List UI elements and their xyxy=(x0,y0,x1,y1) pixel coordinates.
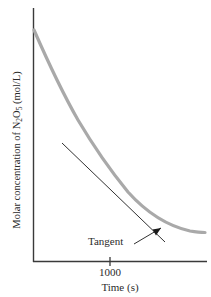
y-axis-title-prefix: Molar concentration of N xyxy=(11,121,22,228)
x-axis-title: Time (s) xyxy=(101,281,139,294)
decay-curve xyxy=(34,30,205,233)
y-axis-title-suffix: (mol/L) xyxy=(11,71,23,107)
y-axis-title: Molar concentration of N2O5 (mol/L) xyxy=(11,71,24,229)
tangent-annotation-label: Tangent xyxy=(88,235,123,247)
plot-area: Tangent 1000 Time (s) Molar concentratio… xyxy=(0,0,211,297)
concentration-vs-time-figure: Tangent 1000 Time (s) Molar concentratio… xyxy=(0,0,211,297)
tangent-line xyxy=(62,143,165,242)
x-tick-label-1000: 1000 xyxy=(99,266,122,278)
